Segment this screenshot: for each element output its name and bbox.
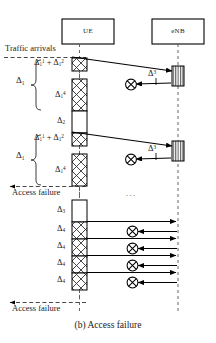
ue-label-seg-9: Δ4 <box>57 258 65 268</box>
enb-label-enb-2: Δ3 <box>148 144 156 153</box>
ue-block-seg-6 <box>72 200 87 222</box>
ue-block-seg-9 <box>72 256 87 273</box>
enb-block-enb-1 <box>172 66 184 86</box>
ue-label-seg-7: Δ4 <box>57 224 65 234</box>
ue-label-seg-8: Δ4 <box>57 241 65 251</box>
ue-block-seg-1 <box>72 58 87 71</box>
msg-enb-to-ue-1 <box>136 83 171 84</box>
enb-block-enb-2 <box>172 141 184 161</box>
ue-block-seg-3 <box>72 111 87 133</box>
access-failure-label-1: Access failure <box>12 188 60 197</box>
traffic-arrivals-label: Traffic arrivals <box>5 44 56 53</box>
ue-block-seg-8 <box>72 239 87 256</box>
enb-entity-label: eNB <box>152 27 204 35</box>
ue-label-seg-6: Δ3 <box>57 205 65 215</box>
ue-label-seg-5: Δ14 <box>55 165 66 175</box>
enb-label-enb-1: Δ3 <box>148 69 156 78</box>
ue-label-seg-10: Δ4 <box>57 275 65 285</box>
brace-label-1: Δ1 <box>16 76 25 86</box>
ue-block-seg-2 <box>72 79 87 111</box>
ue-block-seg-10 <box>72 273 87 290</box>
ue-label-seg-3: Δ2 <box>57 116 65 126</box>
ue-label-seg-1: Δ11 + Δ12 <box>34 58 64 68</box>
msg-enb-to-ue-2 <box>136 158 171 159</box>
ue-block-seg-7 <box>72 222 87 239</box>
ue-block-seg-5 <box>72 154 87 186</box>
ue-label-seg-2: Δ14 <box>55 90 66 100</box>
ue-label-seg-4: Δ11 + Δ12 <box>34 133 64 143</box>
ue-entity-label: UE <box>62 27 114 35</box>
ue-block-seg-4 <box>72 133 87 146</box>
access-failure-figure: UE eNB Traffic arrivals Δ1 Δ1 Δ11 + Δ12 … <box>0 0 216 343</box>
access-failure-label-2: Access failure <box>12 304 60 313</box>
figure-caption: (b) Access failure <box>0 320 216 330</box>
continuation-ellipsis: ... <box>126 188 136 198</box>
brace-label-2: Δ1 <box>16 151 25 161</box>
